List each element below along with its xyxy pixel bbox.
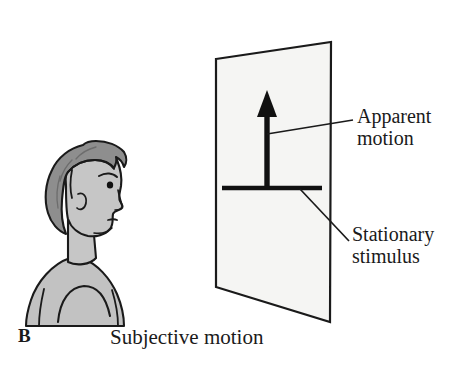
label-stationary-stimulus-line1: Stationary [352, 224, 434, 244]
label-apparent-motion-line1: Apparent [357, 106, 431, 126]
screen-surface [216, 42, 331, 322]
panel-letter-label: B [18, 326, 31, 345]
figure-illustration [0, 0, 457, 365]
stimulus-screen [216, 42, 331, 322]
observer-eye [107, 181, 113, 188]
observer-mouth [108, 219, 117, 220]
panel-caption: Subjective motion [110, 327, 263, 348]
figure-subjective-motion: Apparent motion Stationary stimulus B Su… [0, 0, 457, 365]
observer-figure [26, 141, 126, 326]
label-stationary-stimulus-line2: stimulus [352, 246, 420, 266]
label-apparent-motion-line2: motion [357, 128, 414, 148]
